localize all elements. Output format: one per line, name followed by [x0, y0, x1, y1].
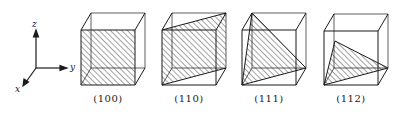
cube-100: [81, 13, 145, 85]
cube-110: [162, 13, 226, 85]
cube-112: [324, 14, 388, 85]
plane-label-110: (110): [174, 93, 203, 104]
coordinate-axes: [23, 30, 67, 86]
plane-label-100: (100): [93, 93, 122, 104]
y-axis-label: y: [70, 62, 75, 72]
plane-label-112: (112): [336, 93, 365, 104]
plane-label-111: (111): [254, 93, 283, 104]
z-axis-label: z: [32, 19, 37, 29]
cube-111: [242, 13, 306, 85]
x-axis-label: x: [15, 84, 20, 94]
